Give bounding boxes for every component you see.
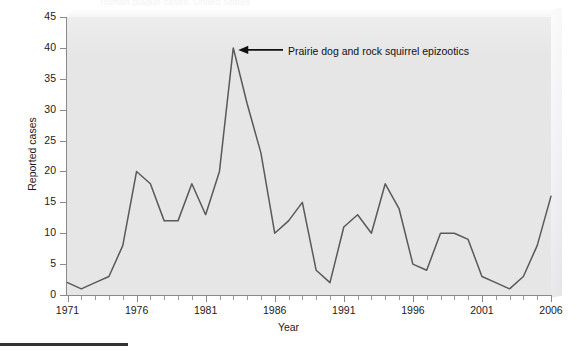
x-tick-1974 bbox=[109, 296, 110, 300]
x-tick-1983 bbox=[233, 296, 234, 300]
x-tick-label-2001: 2001 bbox=[470, 305, 493, 316]
x-tick-1997 bbox=[427, 296, 428, 300]
x-tick-1985 bbox=[261, 296, 262, 300]
x-tick-2001 bbox=[482, 296, 483, 302]
x-tick-1995 bbox=[399, 296, 400, 300]
x-tick-1980 bbox=[192, 296, 193, 300]
x-tick-1971 bbox=[68, 296, 69, 302]
cropped-title-fragment: Human plague cases, United States bbox=[100, 0, 460, 6]
y-tick-35 bbox=[60, 79, 66, 80]
y-tick-25 bbox=[60, 141, 66, 142]
chart-figure: Human plague cases, United States 051015… bbox=[0, 0, 577, 354]
x-tick-1990 bbox=[330, 296, 331, 300]
plot-bevel-top bbox=[66, 8, 562, 17]
plot-area bbox=[66, 17, 551, 295]
y-tick-0 bbox=[60, 295, 66, 296]
x-tick-1977 bbox=[150, 296, 151, 300]
y-tick-label-10: 10 bbox=[16, 227, 56, 238]
x-tick-label-1986: 1986 bbox=[263, 305, 286, 316]
x-tick-1992 bbox=[358, 296, 359, 300]
x-tick-label-1981: 1981 bbox=[194, 305, 217, 316]
y-tick-label-40: 40 bbox=[16, 42, 56, 53]
x-axis-title: Year bbox=[0, 321, 577, 333]
x-axis-line bbox=[66, 295, 552, 296]
x-tick-2004 bbox=[523, 296, 524, 300]
x-tick-1994 bbox=[385, 296, 386, 300]
x-tick-1996 bbox=[413, 296, 414, 302]
y-tick-label-0: 0 bbox=[16, 289, 56, 300]
x-tick-1984 bbox=[247, 296, 248, 300]
x-tick-label-1991: 1991 bbox=[332, 305, 355, 316]
x-tick-1991 bbox=[344, 296, 345, 302]
x-tick-1989 bbox=[316, 296, 317, 300]
x-tick-label-1971: 1971 bbox=[56, 305, 79, 316]
y-axis-line bbox=[66, 17, 67, 296]
x-tick-2003 bbox=[510, 296, 511, 300]
y-tick-20 bbox=[60, 171, 66, 172]
y-tick-45 bbox=[60, 17, 66, 18]
plot-bevel-right bbox=[551, 7, 562, 298]
y-axis-title: Reported cases bbox=[26, 94, 38, 214]
x-tick-2002 bbox=[496, 296, 497, 300]
x-tick-1982 bbox=[220, 296, 221, 300]
y-tick-5 bbox=[60, 264, 66, 265]
x-tick-1979 bbox=[178, 296, 179, 300]
x-tick-1998 bbox=[441, 296, 442, 300]
x-tick-1978 bbox=[164, 296, 165, 300]
x-tick-1987 bbox=[289, 296, 290, 300]
x-tick-1972 bbox=[81, 296, 82, 300]
x-tick-1988 bbox=[302, 296, 303, 300]
y-tick-30 bbox=[60, 110, 66, 111]
x-tick-2000 bbox=[468, 296, 469, 300]
annotation-label: Prairie dog and rock squirrel epizootics bbox=[288, 46, 469, 57]
x-tick-2005 bbox=[537, 296, 538, 300]
x-tick-1999 bbox=[454, 296, 455, 300]
y-tick-15 bbox=[60, 202, 66, 203]
x-tick-label-2006: 2006 bbox=[539, 305, 562, 316]
x-tick-1975 bbox=[123, 296, 124, 300]
y-tick-label-5: 5 bbox=[16, 258, 56, 269]
x-tick-2006 bbox=[551, 296, 552, 302]
x-tick-label-1996: 1996 bbox=[401, 305, 424, 316]
x-tick-1981 bbox=[206, 296, 207, 302]
x-tick-1973 bbox=[95, 296, 96, 300]
y-tick-label-45: 45 bbox=[16, 11, 56, 22]
y-tick-10 bbox=[60, 233, 66, 234]
x-tick-label-1976: 1976 bbox=[125, 305, 148, 316]
x-tick-1976 bbox=[137, 296, 138, 302]
x-tick-1986 bbox=[275, 296, 276, 302]
y-tick-40 bbox=[60, 48, 66, 49]
x-tick-1993 bbox=[371, 296, 372, 300]
footer-rule bbox=[0, 343, 128, 346]
y-tick-label-35: 35 bbox=[16, 73, 56, 84]
